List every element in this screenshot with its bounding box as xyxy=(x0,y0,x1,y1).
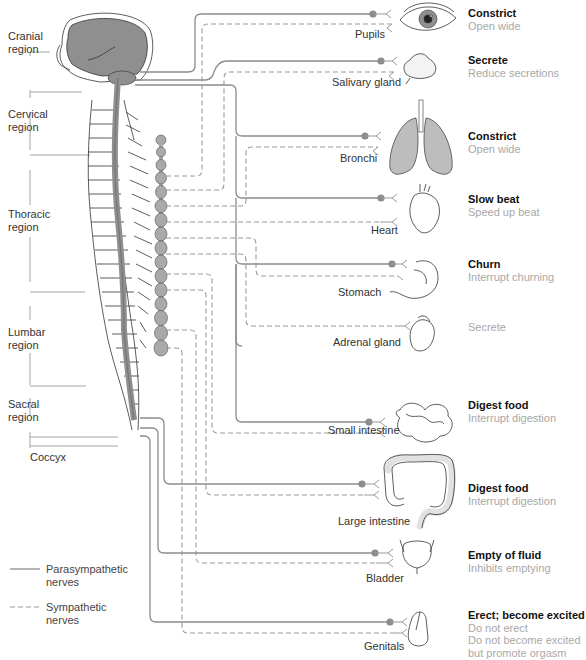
legend-parasympathetic: Parasympathetic nerves xyxy=(46,563,128,589)
sympathetic-effect: Do not erect Do not become excited but p… xyxy=(468,622,585,660)
parasympathetic-pathways xyxy=(10,14,392,622)
sympathetic-pathways xyxy=(10,24,400,633)
effect-heart: Slow beat Speed up beat xyxy=(468,193,540,218)
organ-label-genitals: Genitals xyxy=(364,640,404,652)
effect-salivary-gland: Secrete Reduce secretions xyxy=(468,54,559,79)
sympathetic-effect: Open wide xyxy=(468,20,521,33)
sympathetic-effect: Speed up beat xyxy=(468,206,540,219)
region-label-sacral: Sacral region xyxy=(8,398,39,424)
region-label-lumbar: Lumbar region xyxy=(8,326,45,352)
organ-label-small-intestine: Small intestine xyxy=(328,424,400,436)
organ-label-adrenal-gland: Adrenal gland xyxy=(333,336,401,348)
parasympathetic-effect: Churn xyxy=(468,258,554,271)
sympathetic-effect: Reduce secretions xyxy=(468,67,559,80)
effect-small-intestine: Digest food Interrupt digestion xyxy=(468,399,556,424)
stomach-icon xyxy=(390,261,438,299)
parasympathetic-effect: Erect; become excited xyxy=(468,609,585,622)
parasympathetic-effect: Empty of fluid xyxy=(468,549,551,562)
organ-label-bladder: Bladder xyxy=(366,572,404,584)
effect-stomach: Churn Interrupt churning xyxy=(468,258,554,283)
sympathetic-ganglia-chain xyxy=(154,135,168,356)
effect-bladder: Empty of fluid Inhibits emptying xyxy=(468,549,551,574)
effect-genitals: Erect; become excited Do not erect Do no… xyxy=(468,609,585,659)
organ-label-pupils: Pupils xyxy=(355,28,385,40)
parasympathetic-effect: Constrict xyxy=(468,130,521,143)
salivary-gland-icon xyxy=(404,54,436,84)
parasympathetic-effect: Digest food xyxy=(468,399,556,412)
region-label-cranial: Cranial region xyxy=(8,30,43,56)
effect-large-intestine: Digest food Interrupt digestion xyxy=(468,482,556,507)
spine-icon xyxy=(88,78,152,430)
organ-label-stomach: Stomach xyxy=(338,286,381,298)
sympathetic-effect: Open wide xyxy=(468,143,521,156)
organ-label-large-intestine: Large intestine xyxy=(338,515,410,527)
effect-bronchi: Constrict Open wide xyxy=(468,130,521,155)
region-label-cervical: Cervical region xyxy=(8,108,48,134)
parasympathetic-effect: Digest food xyxy=(468,482,556,495)
parasympathetic-effect: Secrete xyxy=(468,54,559,67)
effect-adrenal-gland: Secrete xyxy=(468,321,506,334)
parasympathetic-effect: Constrict xyxy=(468,7,521,20)
lungs-icon xyxy=(390,100,452,174)
organ-label-heart: Heart xyxy=(371,224,398,236)
genitals-icon xyxy=(408,612,428,646)
sympathetic-effect: Interrupt digestion xyxy=(468,495,556,508)
effect-pupils: Constrict Open wide xyxy=(468,7,521,32)
bladder-icon xyxy=(400,540,434,574)
region-label-coccyx: Coccyx xyxy=(30,451,66,464)
organ-label-bronchi: Bronchi xyxy=(340,152,377,164)
synapse-markers xyxy=(358,10,395,625)
heart-icon xyxy=(410,184,440,233)
small-intestine-icon xyxy=(396,403,452,442)
parasympathetic-effect: Slow beat xyxy=(468,193,540,206)
sympathetic-effect: Secrete xyxy=(468,321,506,334)
nerve-endings xyxy=(362,10,410,637)
sympathetic-effect: Interrupt churning xyxy=(468,271,554,284)
brain-icon xyxy=(57,13,153,85)
eye-icon xyxy=(400,3,456,30)
region-label-thoracic: Thoracic region xyxy=(8,208,50,234)
sympathetic-effect: Inhibits emptying xyxy=(468,562,551,575)
adrenal-gland-icon xyxy=(410,316,434,351)
legend-sympathetic: Sympathetic nerves xyxy=(46,601,107,627)
sympathetic-effect: Interrupt digestion xyxy=(468,412,556,425)
organ-label-salivary-gland: Salivary gland xyxy=(332,76,401,88)
